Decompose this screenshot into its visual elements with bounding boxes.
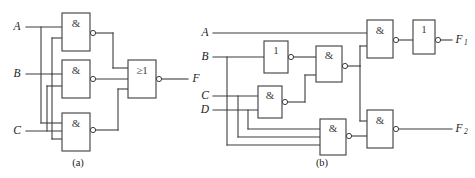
- not-gate-2-invert-bubble: [435, 37, 440, 42]
- nand-gate-2-invert-bubble: [282, 99, 287, 104]
- output-f-label: F: [191, 72, 200, 84]
- input-b-label: B: [13, 67, 20, 79]
- input-a-label: A: [12, 20, 21, 32]
- nand-gate-2-label: &: [266, 89, 275, 101]
- nand-gate-3-invert-bubble: [393, 126, 398, 131]
- output-f1-subscript: 1: [464, 38, 468, 47]
- panel-a: & & & ≥1 A B C F: [12, 13, 200, 169]
- not-gate-2-label: 1: [421, 23, 427, 35]
- nand-gate-1-invert-bubble: [342, 63, 347, 68]
- nand-gate-4-label: &: [329, 122, 338, 134]
- output-f2-subscript: 2: [464, 127, 468, 136]
- nand-gate-2-invert-bubble: [90, 76, 95, 81]
- nand-gate-4-invert-bubble: [346, 133, 351, 138]
- panel-b: 1 & & & &: [200, 20, 468, 169]
- panel-a-caption: (a): [72, 157, 84, 169]
- panel-b-caption: (b): [316, 157, 329, 169]
- input-b-label: B: [201, 50, 208, 62]
- input-c-label: C: [13, 124, 21, 136]
- nand-gate-1-invert-bubble: [90, 30, 95, 35]
- nor-gate-1-invert-bubble: [156, 76, 161, 81]
- output-f2-label: F: [454, 122, 463, 134]
- not-gate-1-invert-bubble: [288, 54, 293, 59]
- nand-gate-2-label: &: [72, 64, 81, 76]
- nand-gate-5-label: &: [376, 24, 385, 36]
- output-f1-label: F: [454, 33, 463, 45]
- nor-gate-1-label: ≥1: [136, 64, 148, 76]
- not-gate-1-label: 1: [273, 44, 279, 56]
- nand-gate-3-label: &: [376, 114, 385, 126]
- nand-gate-1-label: &: [72, 17, 81, 29]
- input-a-label: A: [200, 26, 209, 38]
- nand-gate-3-invert-bubble: [90, 127, 95, 132]
- nand-gate-5-invert-bubble: [393, 37, 398, 42]
- input-c-label: C: [201, 89, 209, 101]
- nand-gate-3-label: &: [72, 117, 81, 129]
- nand-gate-1-label: &: [325, 49, 334, 61]
- input-d-label: D: [200, 103, 210, 115]
- logic-circuit-figure: & & & ≥1 A B C F: [0, 0, 475, 178]
- figure-canvas: & & & ≥1 A B C F: [0, 0, 475, 178]
